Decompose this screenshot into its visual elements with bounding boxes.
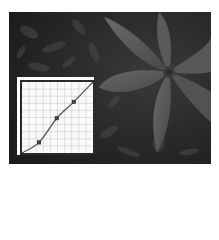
curves-adjustment-panel [17, 77, 94, 155]
curve-control-point[interactable] [55, 116, 59, 120]
tone-curve[interactable] [22, 82, 93, 153]
curve-control-point[interactable] [72, 100, 76, 104]
curves-graph[interactable] [20, 80, 95, 155]
curve-control-point[interactable] [37, 141, 41, 145]
